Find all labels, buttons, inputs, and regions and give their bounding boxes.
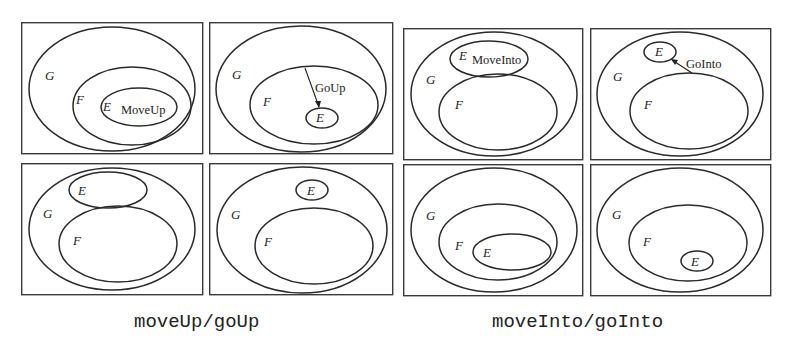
label-g: G	[231, 207, 241, 222]
panel-frame	[22, 23, 203, 154]
label-f: F	[643, 97, 653, 112]
panel-goup-after: G F E	[209, 163, 394, 296]
operation-label: GoUp	[315, 81, 346, 95]
label-e: E	[315, 110, 324, 125]
panel-frame	[404, 29, 583, 160]
panel-frame	[591, 29, 771, 160]
operation-label: MoveInto	[472, 53, 521, 67]
label-f: F	[262, 94, 272, 109]
label-g: G	[612, 207, 622, 222]
label-f: F	[454, 97, 464, 112]
label-e: E	[77, 183, 86, 198]
panel-frame	[210, 23, 393, 154]
label-e: E	[654, 44, 663, 59]
operation-label: MoveUp	[121, 103, 165, 117]
panel-moveup-before: G F E MoveUp	[21, 22, 204, 155]
label-e: E	[482, 245, 491, 260]
label-f: F	[263, 234, 273, 249]
panel-moveup-after: G F E	[21, 163, 204, 296]
label-g: G	[426, 72, 436, 87]
label-g: G	[426, 208, 436, 223]
panel-goup-before: G F E GoUp	[209, 22, 394, 155]
panel-moveinto-after: G F E	[403, 164, 584, 297]
panel-moveinto-before: G F E MoveInto	[403, 28, 584, 161]
label-g: G	[45, 68, 55, 83]
panel-gointo-before: G F E GoInto	[590, 28, 772, 161]
panel-frame	[404, 165, 583, 296]
caption-moveup-goup: moveUp/goUp	[134, 311, 259, 333]
panel-frame	[22, 164, 203, 295]
label-e: E	[306, 183, 315, 198]
label-e: E	[458, 48, 467, 63]
label-f: F	[642, 234, 652, 249]
label-g: G	[232, 67, 242, 82]
label-f: F	[72, 233, 82, 248]
operation-label: GoInto	[686, 57, 721, 71]
panel-gointo-after: G F E	[590, 164, 772, 297]
label-f: F	[75, 92, 85, 107]
label-g: G	[613, 69, 623, 84]
label-f: F	[454, 238, 464, 253]
label-e: E	[690, 254, 699, 269]
label-g: G	[43, 206, 53, 221]
caption-moveinto-gointo: moveInto/goInto	[492, 311, 663, 333]
label-e: E	[102, 99, 111, 114]
